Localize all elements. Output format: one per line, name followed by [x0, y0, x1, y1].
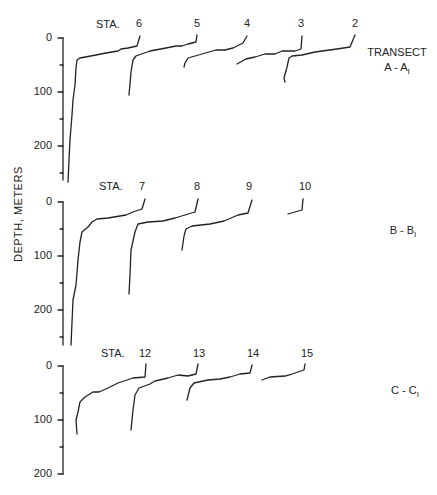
- profile-sta-6: [68, 36, 140, 182]
- station-label-4: 4: [244, 17, 250, 29]
- profile-sta-15: [262, 364, 305, 380]
- profile-sta-7: [71, 199, 145, 345]
- station-prefix-label: STA.: [99, 180, 123, 192]
- profile-sta-12: [76, 364, 146, 434]
- tick-label: 0: [16, 31, 52, 43]
- station-prefix-label: STA.: [96, 18, 120, 30]
- transect-name: B - BI: [378, 223, 428, 242]
- tick-label: 100: [16, 413, 52, 425]
- tick-label: 200: [16, 139, 52, 151]
- profile-sta-9: [182, 200, 252, 250]
- y-axis-label: DEPTH, METERS: [12, 166, 24, 262]
- station-prefix-label: STA.: [101, 347, 125, 359]
- tick-label: 200: [16, 467, 52, 479]
- profile-sta-8: [129, 199, 198, 294]
- station-label-6: 6: [136, 17, 142, 29]
- station-label-9: 9: [246, 180, 252, 192]
- station-label-12: 12: [139, 347, 151, 359]
- station-label-7: 7: [139, 180, 145, 192]
- tick-label: 200: [16, 303, 52, 315]
- tick-label: 100: [16, 249, 52, 261]
- station-label-10: 10: [299, 180, 311, 192]
- axis-panel-a: [58, 38, 63, 180]
- transect-name: A - AI: [362, 60, 432, 79]
- station-label-15: 15: [301, 347, 313, 359]
- station-label-2: 2: [352, 17, 358, 29]
- transect-title: TRANSECT: [362, 45, 432, 60]
- profile-sta-5: [129, 35, 197, 95]
- axis-panel-b: [58, 202, 63, 345]
- profile-sta-3: [237, 36, 302, 64]
- transect-label-c: C - CI: [380, 383, 430, 402]
- station-label-3: 3: [298, 17, 304, 29]
- station-label-8: 8: [194, 180, 200, 192]
- profile-sta-10: [288, 199, 303, 214]
- tick-label: 0: [16, 195, 52, 207]
- transect-name: C - CI: [380, 383, 430, 402]
- profile-sta-2: [284, 35, 355, 82]
- station-label-14: 14: [247, 347, 259, 359]
- transect-label-b: B - BI: [378, 223, 428, 242]
- station-label-13: 13: [193, 347, 205, 359]
- tick-label: 100: [16, 85, 52, 97]
- tick-label: 0: [16, 359, 52, 371]
- station-label-5: 5: [194, 17, 200, 29]
- axis-panel-c: [58, 366, 63, 474]
- profile-sta-4: [184, 36, 247, 67]
- transect-label-a: TRANSECT A - AI: [362, 45, 432, 79]
